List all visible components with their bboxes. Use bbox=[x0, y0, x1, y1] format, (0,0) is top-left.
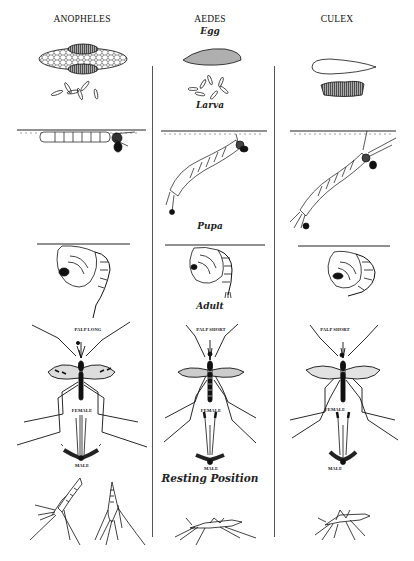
culex-larva bbox=[290, 131, 396, 229]
anopheles-larva bbox=[40, 132, 135, 152]
aedes-pupa bbox=[190, 247, 232, 298]
mosquito-illustrations bbox=[0, 0, 414, 561]
aedes-resting bbox=[175, 518, 256, 545]
aedes-larva bbox=[166, 134, 248, 215]
culex-resting bbox=[315, 510, 370, 540]
anopheles-egg bbox=[39, 44, 127, 74]
culex-pupa bbox=[328, 251, 375, 296]
aedes-egg bbox=[183, 49, 241, 65]
culex-adult-female bbox=[290, 325, 398, 440]
anopheles-resting-2 bbox=[95, 482, 145, 545]
culex-egg bbox=[312, 59, 376, 74]
anopheles-egg-cluster bbox=[51, 80, 99, 100]
aedes-egg-cluster bbox=[188, 75, 229, 100]
anopheles-male-antennae bbox=[61, 415, 101, 461]
water-lines-larva bbox=[17, 130, 396, 131]
culex-egg-raft bbox=[321, 81, 364, 96]
culex-male-antennae bbox=[330, 412, 356, 465]
anopheles-resting-1 bbox=[30, 478, 82, 545]
aedes-male-antennae bbox=[196, 412, 224, 465]
water-lines-pupa bbox=[37, 244, 390, 246]
anopheles-pupa bbox=[57, 246, 110, 318]
